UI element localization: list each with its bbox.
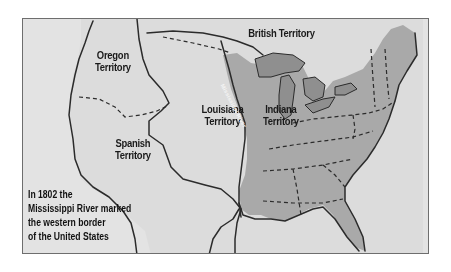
oregon-territory-label: Oregon Territory — [95, 49, 131, 73]
map-caption: In 1802 the Mississippi River marked the… — [28, 187, 131, 243]
map-frame: British Territory Oregon Territory Louis… — [22, 18, 429, 254]
indiana-territory-label: Indiana Territory — [263, 103, 299, 127]
british-territory-label: British Territory — [248, 27, 314, 39]
spanish-territory-label: Spanish Territory — [115, 137, 151, 161]
